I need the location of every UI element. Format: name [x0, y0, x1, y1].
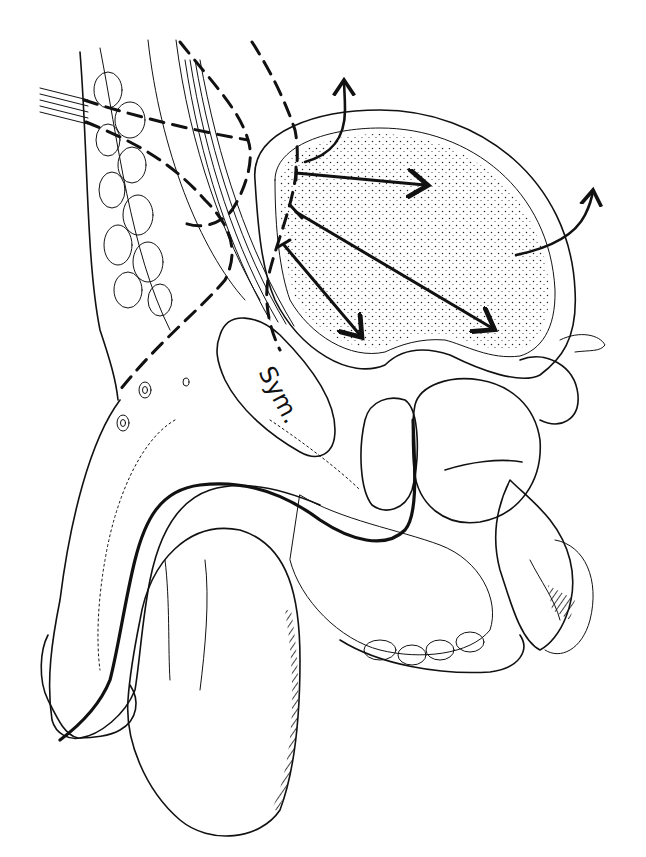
vessels: [117, 378, 189, 431]
rectum: [496, 480, 593, 654]
abdominal-wall: [40, 40, 294, 400]
anatomical-illustration: Sym.: [0, 0, 646, 857]
scrotum: [128, 528, 300, 836]
symphysis-label: Sym.: [253, 362, 306, 429]
prostate: [361, 335, 605, 523]
bladder: [255, 110, 576, 378]
penis: [41, 400, 415, 740]
